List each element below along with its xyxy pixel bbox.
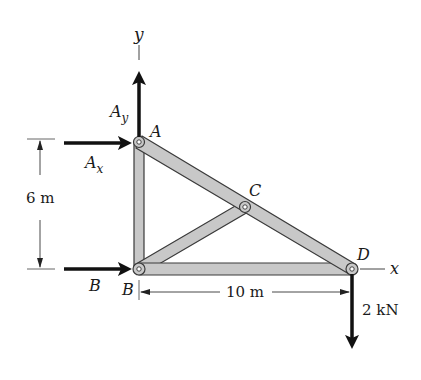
dimension-horizontal-label: 10 m bbox=[226, 283, 264, 301]
pin-B bbox=[137, 267, 141, 271]
pin-C bbox=[243, 205, 247, 209]
dimension-vertical-label: 6 m bbox=[26, 189, 55, 207]
y-axis-label: y bbox=[133, 24, 144, 44]
reaction-Ax-label: Ax bbox=[83, 153, 104, 176]
joint-A-label: A bbox=[148, 122, 162, 141]
x-axis-label: x bbox=[390, 259, 399, 278]
reaction-B-label: B bbox=[88, 276, 101, 295]
member-BD bbox=[139, 263, 352, 275]
truss-diagram: y x Ay Ax B A B C D 2 kN 6 m bbox=[0, 0, 421, 380]
dimension-horizontal: 10 m bbox=[139, 280, 349, 301]
pin-A bbox=[137, 140, 141, 144]
member-AB bbox=[134, 142, 144, 269]
reaction-Ay-label: Ay bbox=[108, 102, 129, 125]
joint-D-label: D bbox=[356, 245, 370, 264]
load-D-label: 2 kN bbox=[362, 301, 399, 319]
pin-D bbox=[350, 267, 354, 271]
dimension-vertical: 6 m bbox=[26, 139, 55, 269]
joint-B-label: B bbox=[121, 280, 134, 299]
joint-C-label: C bbox=[249, 181, 261, 200]
